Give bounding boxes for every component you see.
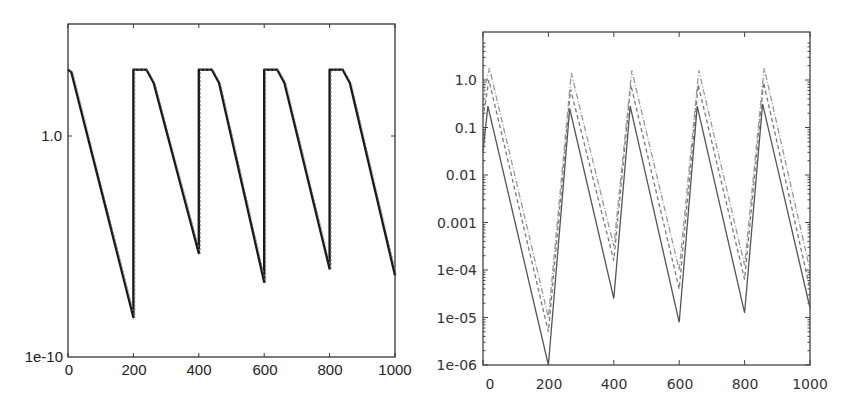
right-y-tick-label-0.01: 0.01 [446, 167, 477, 183]
left-y-tick-label-1e-10: 1e-10 [25, 348, 63, 365]
left-x-tick-label-400: 400 [186, 361, 211, 378]
right-series-1-line [483, 104, 810, 365]
left-x-tick-label-0: 0 [65, 361, 73, 378]
right-plot-frame [483, 32, 810, 365]
right-y-tick-label-1e-06: 1e-06 [437, 357, 477, 373]
right-y-tick-label-1: 1.0 [455, 72, 477, 88]
right-y-tick-label-1e-05: 1e-05 [437, 310, 477, 326]
right-chart-panel: 1.0 0.1 0.01 0.001 1e-04 1e-05 1e-06 0 2… [425, 0, 849, 405]
left-x-tick-label-200: 200 [121, 361, 146, 378]
left-plot-series [68, 70, 397, 318]
right-axis-ticks [483, 32, 810, 365]
right-x-tick-label-0: 0 [486, 376, 495, 392]
left-chart: 1e-10 1.0 0 200 400 600 800 1000 [0, 0, 425, 405]
left-y-tick-label-1: 1.0 [41, 127, 62, 144]
right-x-tick-label-200: 200 [536, 376, 563, 392]
right-y-tick-label-0.1: 0.1 [455, 120, 477, 136]
right-x-tick-label-800: 800 [732, 376, 759, 392]
left-x-tick-label-600: 600 [252, 361, 277, 378]
right-plot-series [483, 68, 810, 365]
right-y-tick-label-1e-04: 1e-04 [437, 262, 477, 278]
left-x-tick-label-1000: 1000 [378, 361, 411, 378]
left-chart-panel: 1e-10 1.0 0 200 400 600 800 1000 [0, 0, 425, 405]
left-series-line [68, 70, 395, 318]
right-chart: 1.0 0.1 0.01 0.001 1e-04 1e-05 1e-06 0 2… [425, 0, 849, 405]
left-series-line-shadow [70, 70, 397, 318]
right-x-tick-label-1000: 1000 [792, 376, 828, 392]
right-series-3-line [483, 68, 810, 317]
left-x-tick-label-800: 800 [317, 361, 342, 378]
right-x-tick-label-400: 400 [601, 376, 628, 392]
right-y-tick-label-0.001: 0.001 [437, 215, 477, 231]
right-x-tick-label-600: 600 [667, 376, 694, 392]
